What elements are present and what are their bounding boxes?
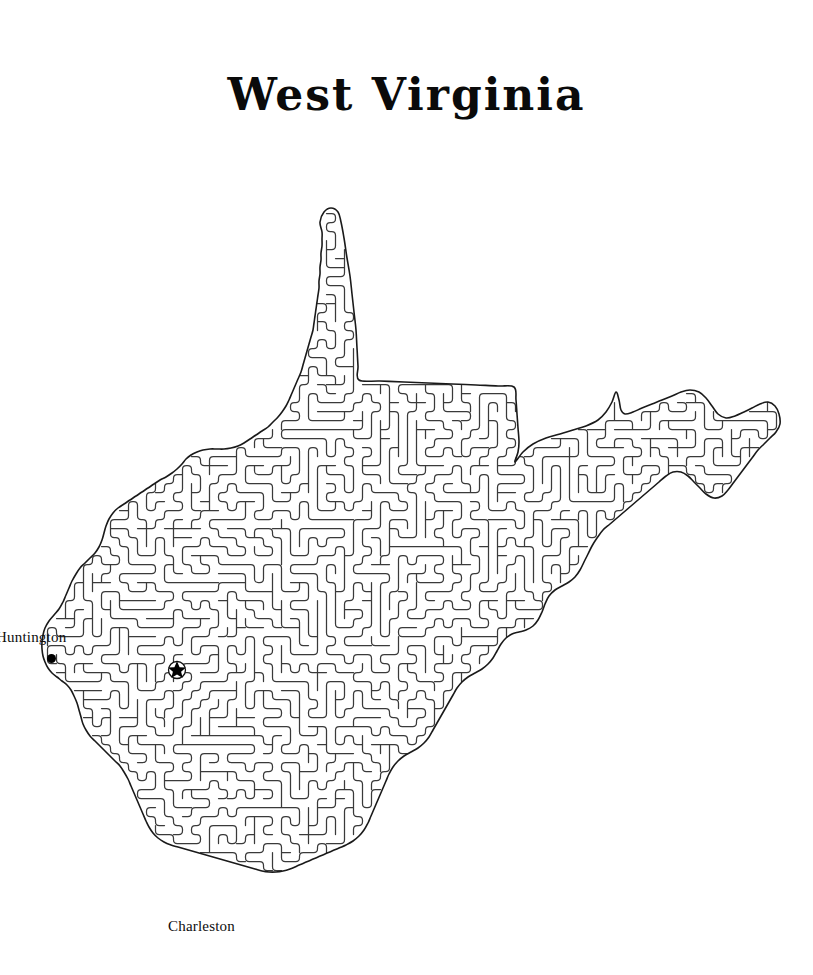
capital-star-icon bbox=[168, 661, 186, 678]
state-fill bbox=[42, 208, 780, 872]
maze-figure bbox=[0, 0, 813, 975]
page-canvas: West Virginia Huntington Charle bbox=[0, 0, 813, 975]
city-dot-huntington bbox=[47, 654, 56, 663]
west-virginia-maze-svg bbox=[0, 0, 813, 975]
city-label-charleston: Charleston bbox=[168, 918, 235, 935]
city-label-huntington: Huntington bbox=[0, 629, 66, 646]
